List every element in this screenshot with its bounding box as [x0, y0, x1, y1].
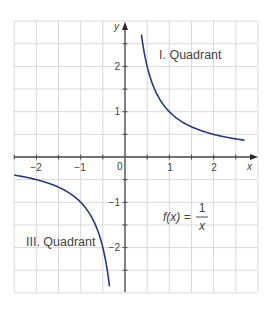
- hyperbola-chart: y x 0 −2 −1 1 2 2 1 −1 −2 I. Quadrant II…: [0, 0, 269, 321]
- x-tick-label: 1: [167, 162, 173, 173]
- x-tick-label: −2: [30, 162, 42, 173]
- x-axis-label: x: [246, 161, 253, 172]
- y-axis-arrow-icon: [122, 22, 128, 30]
- x-tick-label: 2: [211, 162, 217, 173]
- function-lhs: f(x) =: [163, 210, 191, 224]
- quadrant-iii-label: III. Quadrant: [26, 235, 96, 249]
- function-denominator: x: [198, 219, 206, 233]
- y-tick-label: −1: [109, 197, 121, 208]
- origin-label: 0: [117, 161, 123, 172]
- axes: [14, 22, 258, 292]
- y-tick-label: 1: [114, 106, 120, 117]
- x-tick-label: −1: [74, 162, 86, 173]
- curve-quadrant-iii: [14, 175, 109, 286]
- y-axis-label: y: [113, 21, 120, 32]
- x-axis-arrow-icon: [250, 154, 258, 160]
- labels: y x 0 −2 −1 1 2 2 1 −1 −2 I. Quadrant II…: [26, 21, 253, 253]
- quadrant-i-label: I. Quadrant: [159, 48, 222, 62]
- function-numerator: 1: [199, 201, 206, 215]
- y-tick-label: −2: [109, 242, 121, 253]
- y-tick-label: 2: [114, 61, 120, 72]
